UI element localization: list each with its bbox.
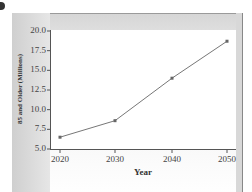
- data-point-marker: [226, 40, 229, 43]
- data-point-marker: [171, 77, 174, 80]
- line-series: [0, 0, 252, 192]
- data-point-marker: [114, 119, 117, 122]
- data-point-marker: [59, 136, 62, 139]
